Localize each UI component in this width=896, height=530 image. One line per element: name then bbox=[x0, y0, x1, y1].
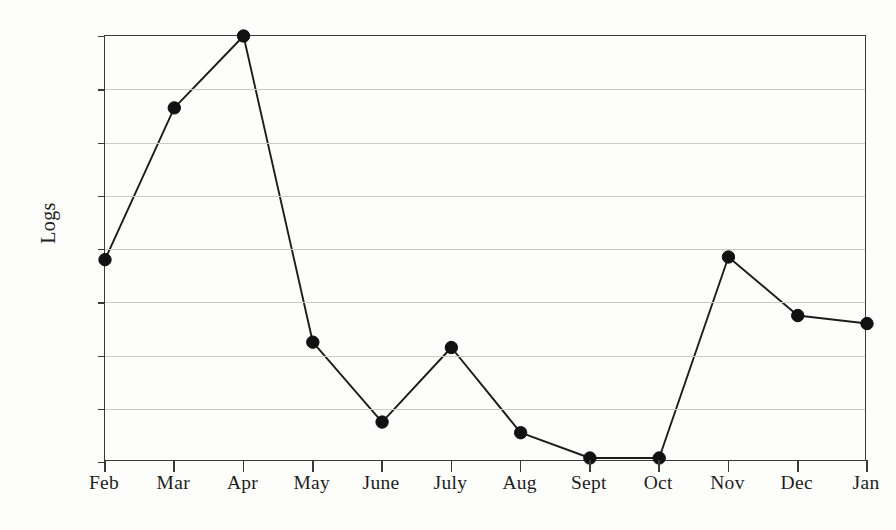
plot-area bbox=[104, 35, 866, 461]
gridline bbox=[105, 249, 865, 250]
data-point-marker[interactable] bbox=[168, 102, 180, 114]
chart-figure: Logs 020406080100120140160FebMarAprMayJu… bbox=[0, 0, 896, 530]
series-line bbox=[105, 36, 867, 458]
y-tick-mark bbox=[98, 89, 105, 90]
x-tick-mark bbox=[589, 460, 591, 472]
x-tick-mark bbox=[312, 460, 314, 472]
gridline bbox=[105, 143, 865, 144]
x-tick-mark bbox=[728, 460, 730, 472]
x-tick-mark bbox=[381, 460, 383, 472]
y-tick-mark bbox=[98, 409, 105, 410]
gridline bbox=[105, 89, 865, 90]
x-tick-mark bbox=[104, 460, 106, 472]
x-tick-mark bbox=[866, 460, 868, 472]
y-tick-mark bbox=[98, 36, 105, 37]
y-tick-mark bbox=[98, 249, 105, 250]
y-axis-title: Logs bbox=[37, 168, 60, 278]
y-tick-mark bbox=[98, 143, 105, 144]
data-point-marker[interactable] bbox=[445, 341, 457, 353]
y-tick-mark bbox=[98, 196, 105, 197]
y-tick-mark bbox=[98, 356, 105, 357]
data-point-marker[interactable] bbox=[792, 309, 804, 321]
data-point-marker[interactable] bbox=[514, 427, 526, 439]
data-point-marker[interactable] bbox=[307, 336, 319, 348]
x-tick-label: Jan bbox=[821, 472, 896, 494]
data-point-marker[interactable] bbox=[237, 30, 249, 42]
x-tick-mark bbox=[243, 460, 245, 472]
x-tick-mark bbox=[520, 460, 522, 472]
data-point-marker[interactable] bbox=[861, 317, 873, 329]
data-point-marker[interactable] bbox=[722, 251, 734, 263]
gridline bbox=[105, 409, 865, 410]
gridline bbox=[105, 302, 865, 303]
y-tick-mark bbox=[98, 302, 105, 303]
gridline bbox=[105, 196, 865, 197]
x-tick-mark bbox=[451, 460, 453, 472]
x-tick-mark bbox=[173, 460, 175, 472]
x-tick-mark bbox=[658, 460, 660, 472]
data-point-marker[interactable] bbox=[99, 253, 111, 265]
data-point-marker[interactable] bbox=[376, 416, 388, 428]
gridline bbox=[105, 356, 865, 357]
x-tick-mark bbox=[797, 460, 799, 472]
